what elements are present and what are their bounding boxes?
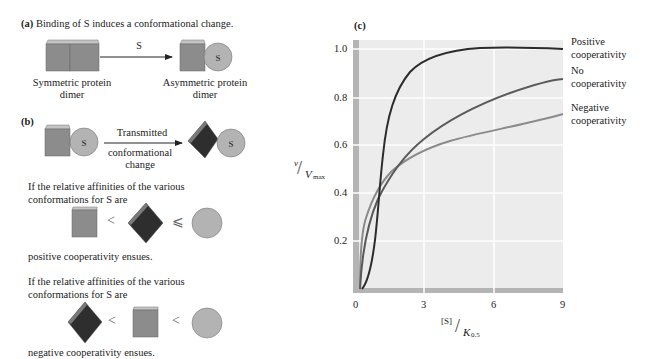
y-tick-1-0: 1.0 (334, 42, 347, 55)
x-axis-label-den: K (463, 326, 470, 338)
legend-none-line1: No (571, 64, 626, 77)
x-axis-label: [S] / K 0.5 (441, 316, 491, 342)
x-tick-9: 9 (560, 298, 565, 311)
legend-positive-line2: cooperativity (571, 48, 626, 61)
y-axis-label-sub: max (313, 173, 325, 181)
legend-positive: Positive cooperativity (571, 35, 626, 61)
legend-negative-line1: Negative (571, 101, 626, 114)
y-tick-0-4: 0.4 (334, 186, 347, 199)
x-axis-label-sub: 0.5 (471, 331, 480, 339)
y-tick-0-8: 0.8 (334, 91, 347, 104)
legend-positive-line1: Positive (571, 35, 626, 48)
x-tick-3: 3 (421, 298, 426, 311)
y-axis-label-den: V (305, 168, 312, 180)
x-axis-band (353, 288, 563, 293)
x-axis-label-num: [S] (441, 316, 452, 326)
y-axis-label-slash: / (297, 158, 302, 179)
y-axis-label: v / V max (294, 158, 334, 184)
y-axis-band (353, 40, 359, 292)
y-tick-0-6: 0.6 (334, 138, 347, 151)
legend-none-line2: cooperativity (571, 77, 626, 90)
x-tick-6: 6 (491, 298, 496, 311)
x-axis-label-slash: / (455, 316, 460, 337)
plot-area (353, 40, 563, 292)
legend-negative-line2: cooperativity (571, 114, 626, 127)
y-tick-0-2: 0.2 (334, 234, 347, 247)
x-tick-0: 0 (353, 298, 358, 311)
legend-none: No cooperativity (571, 64, 626, 90)
legend-negative: Negative cooperativity (571, 101, 626, 127)
